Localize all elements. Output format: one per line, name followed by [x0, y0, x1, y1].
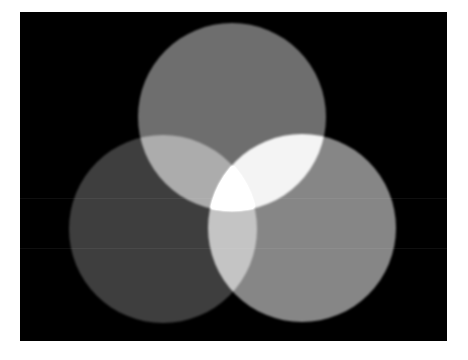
image-frame — [20, 12, 447, 341]
right-circle — [208, 134, 396, 322]
